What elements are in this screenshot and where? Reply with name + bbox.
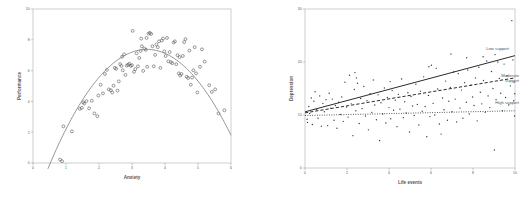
data-point [418, 124, 419, 125]
chart-panel-life-events-depression: 02468100102030Life eventsDepressionLow s… [265, 0, 530, 199]
data-point [214, 88, 217, 91]
data-point [356, 77, 357, 78]
y-tick-label: 10 [298, 113, 302, 117]
data-point [424, 106, 425, 107]
data-point [306, 119, 307, 120]
data-point [311, 97, 312, 98]
data-point [417, 104, 418, 105]
data-point [151, 45, 154, 48]
data-point [500, 93, 501, 94]
data-point [357, 83, 358, 84]
life-events-depression-plot: 02468100102030Life eventsDepressionLow s… [265, 0, 530, 199]
data-point [466, 57, 467, 58]
data-point [409, 131, 410, 132]
data-point [178, 56, 181, 59]
data-point [111, 91, 114, 94]
data-point [351, 103, 352, 104]
data-point [365, 115, 366, 116]
data-point [90, 99, 93, 102]
data-point [482, 56, 483, 57]
data-point [322, 103, 323, 104]
series-label-moderate-support: Moderatesupport [501, 73, 520, 83]
data-point [181, 55, 184, 58]
data-point [136, 65, 139, 68]
x-tick-label: 3 [131, 166, 133, 170]
x-tick-label: 8 [472, 171, 474, 175]
data-point [428, 95, 429, 96]
y-tick-label: 20 [298, 60, 302, 64]
data-point [159, 66, 162, 69]
data-point [154, 53, 157, 56]
data-point [387, 97, 388, 98]
data-point [477, 120, 478, 121]
data-point [445, 80, 446, 81]
x-axis-title: Life events [398, 180, 422, 185]
x-tick-label: 5 [197, 166, 199, 170]
data-point [467, 69, 468, 70]
data-point [475, 77, 476, 78]
data-point [133, 70, 136, 73]
data-point [376, 119, 377, 120]
data-point [354, 72, 355, 73]
data-point [352, 135, 353, 136]
data-point [183, 41, 186, 44]
two-panel-scatter-figure: 01234560246810AnxietyPerformance 0246810… [0, 0, 530, 199]
y-tick-label: 0 [300, 166, 302, 170]
data-point [391, 90, 392, 91]
data-point [434, 114, 435, 115]
data-point [469, 113, 470, 114]
y-tick-label: 30 [298, 7, 302, 11]
data-point [396, 126, 397, 127]
data-point [503, 63, 504, 64]
data-point [142, 69, 145, 72]
data-point [443, 109, 444, 110]
data-point [313, 101, 314, 102]
y-axis-title: Performance [17, 72, 22, 101]
data-point [492, 88, 493, 89]
data-point [466, 102, 467, 103]
data-point [308, 106, 309, 107]
data-point [450, 87, 451, 88]
data-point [191, 76, 194, 79]
data-point [332, 98, 333, 99]
data-point [307, 122, 308, 123]
data-point [140, 45, 143, 48]
data-point [314, 91, 315, 92]
data-point [135, 52, 138, 55]
x-tick-label: 2 [98, 166, 100, 170]
data-point [461, 89, 462, 90]
data-point [505, 97, 506, 98]
x-tick-label: 4 [388, 171, 390, 175]
data-point [168, 51, 171, 54]
data-point [124, 73, 127, 76]
data-point [486, 60, 487, 61]
data-point [437, 88, 438, 89]
data-point [140, 37, 143, 40]
data-point [146, 65, 149, 68]
data-point [336, 128, 337, 129]
data-point [70, 130, 73, 133]
data-point [196, 91, 199, 94]
data-point [346, 106, 347, 107]
data-point [102, 92, 105, 95]
data-point [93, 112, 96, 115]
data-point [514, 93, 515, 94]
data-point [138, 57, 141, 60]
data-point [96, 115, 99, 118]
x-tick-label: 6 [430, 171, 432, 175]
data-point [343, 121, 344, 122]
regression-line-high-support [305, 111, 515, 116]
x-tick-label: 0 [304, 171, 306, 175]
data-point [344, 81, 345, 82]
data-point [325, 99, 326, 100]
data-point [478, 67, 479, 68]
data-point [395, 99, 396, 100]
y-tick-label: 2 [28, 131, 30, 135]
data-point [354, 89, 355, 90]
data-point [414, 115, 415, 116]
data-point [145, 37, 148, 40]
data-point [510, 85, 511, 86]
data-point [423, 76, 424, 77]
y-tick-label: 6 [28, 69, 30, 73]
data-point [349, 75, 350, 76]
